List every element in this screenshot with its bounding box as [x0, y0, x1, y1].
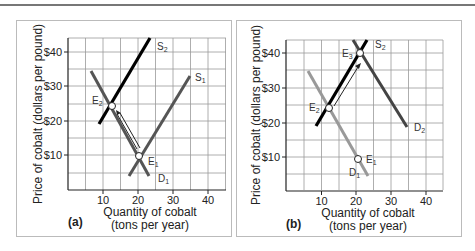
arrow-a — [117, 114, 137, 149]
point-e2-b — [326, 105, 333, 112]
panel-label-a: (a) — [68, 215, 83, 229]
xlabel-a-2: (tons per year) — [111, 218, 189, 232]
ytick-b-40: $40 — [262, 47, 280, 59]
point-e1-b — [355, 156, 362, 163]
xtick-a-40: 40 — [202, 194, 214, 206]
xlabel-a-1: Quantity of cobalt — [103, 205, 197, 219]
chart-b: $40 $30 $20 $10 10 20 30 40 Quantity of … — [249, 25, 443, 233]
svg-text:D1: D1 — [158, 173, 169, 185]
svg-text:S2: S2 — [375, 39, 386, 51]
svg-text:S2: S2 — [157, 41, 168, 53]
ytick-b-20: $20 — [262, 117, 280, 129]
ytick-a-10: $10 — [44, 149, 62, 161]
panel-label-b: (b) — [286, 217, 301, 231]
svg-text:E1: E1 — [148, 156, 159, 168]
svg-text:E2: E2 — [309, 102, 320, 114]
ytick-a-20: $20 — [44, 115, 62, 127]
svg-text:E2: E2 — [92, 95, 103, 107]
ytick-a-40: $40 — [44, 46, 62, 58]
ylabel-a: Price of cobalt (dollars per pound) — [31, 24, 45, 204]
chart-a: $40 $30 $20 $10 10 20 30 40 Quantity of … — [31, 24, 226, 232]
ytick-b-10: $10 — [262, 151, 280, 163]
charts: $40 $30 $20 $10 10 20 30 40 Quantity of … — [0, 0, 475, 251]
point-e1-a — [136, 153, 143, 160]
xtick-b-40: 40 — [420, 195, 432, 207]
point-e3-b — [357, 50, 364, 57]
xlabel-b-2: (tons per year) — [329, 219, 407, 233]
svg-text:D1: D1 — [349, 167, 360, 179]
curve-s2-a — [99, 38, 150, 124]
point-e2-a — [109, 103, 116, 110]
svg-text:E3: E3 — [342, 48, 353, 60]
svg-text:S1: S1 — [195, 72, 206, 84]
ytick-b-30: $30 — [262, 82, 280, 94]
ylabel-b: Price of cobalt (dollars per pound) — [249, 25, 263, 205]
ytick-a-30: $30 — [44, 80, 62, 92]
svg-text:D2: D2 — [414, 122, 425, 134]
xlabel-b-1: Quantity of cobalt — [321, 206, 415, 220]
grid-a — [68, 38, 226, 190]
svg-text:E1: E1 — [366, 154, 377, 166]
